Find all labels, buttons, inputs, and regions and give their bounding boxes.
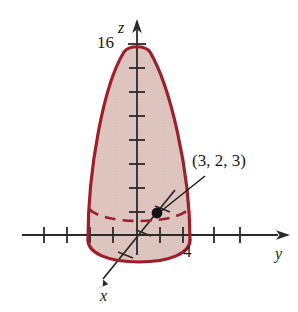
x-axis-label: x — [100, 288, 107, 304]
point-marker — [152, 208, 163, 219]
z-axis-label: z — [118, 20, 124, 36]
y-axis-arrowhead — [276, 230, 290, 240]
y-axis-tick-label-4: 4 — [183, 243, 192, 260]
diagram-canvas — [0, 0, 298, 312]
y-axis-label: y — [275, 246, 282, 262]
solid-body-texture — [88, 47, 190, 262]
math-figure: z y x 16 4 (3, 2, 3) — [0, 0, 298, 312]
z-axis-tick-label-16: 16 — [97, 34, 114, 51]
point-coordinate-label: (3, 2, 3) — [192, 152, 246, 169]
